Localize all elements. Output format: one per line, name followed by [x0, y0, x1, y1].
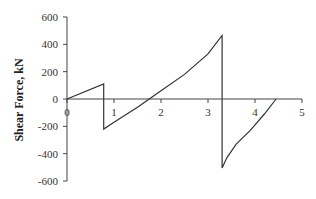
x-tick-label: 1: [111, 106, 117, 118]
y-tick-label: 200: [42, 66, 59, 78]
y-tick-label: -600: [38, 175, 59, 187]
axes: [63, 17, 302, 181]
x-tick-label: 2: [158, 106, 164, 118]
y-tick-label: 0: [53, 93, 59, 105]
y-tick-label: -400: [38, 148, 59, 160]
x-tick-label: 5: [299, 106, 305, 118]
shear-force-chart: 6004002000-200-400-600012345: [0, 0, 316, 199]
x-tick-label: 3: [205, 106, 211, 118]
shear-force-line: [67, 36, 276, 169]
y-tick-label: 400: [42, 38, 59, 50]
y-tick-label: 600: [42, 11, 59, 23]
x-tick-label: 0: [64, 106, 70, 118]
y-tick-label: -200: [38, 120, 59, 132]
x-tick-label: 4: [252, 106, 258, 118]
